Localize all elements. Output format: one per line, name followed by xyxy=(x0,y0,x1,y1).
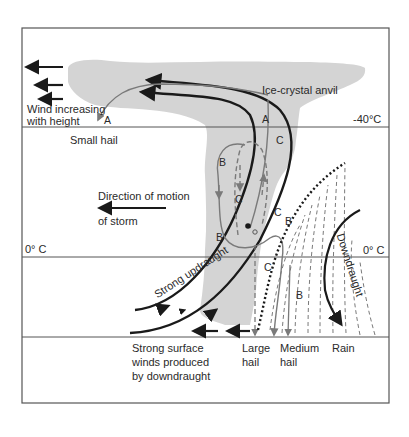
large-hail-label-1: Large xyxy=(242,342,270,355)
marker-B-rain: B xyxy=(296,289,303,302)
medium-hail-label-2: hail xyxy=(280,356,297,369)
direction-label-1: Direction of motion xyxy=(98,190,190,203)
marker-A-left: A xyxy=(104,114,111,127)
ice-crystal-anvil-label: Ice-crystal anvil xyxy=(262,84,338,97)
marker-C-mid-right: C xyxy=(274,206,282,219)
direction-label-2: of storm xyxy=(98,215,138,228)
marker-B-upper: B xyxy=(219,156,226,169)
large-hail-label-2: hail xyxy=(242,356,259,369)
marker-C-mid-left: C xyxy=(235,193,243,206)
temp-zero-right-label: 0° C xyxy=(363,244,385,257)
temp-zero-left-label: 0° C xyxy=(25,243,47,256)
marker-C-bottom: C xyxy=(264,261,272,274)
wind-label-2: with height xyxy=(27,115,80,128)
temp-minus40-label: -40°C xyxy=(353,113,381,126)
rain-lines xyxy=(270,165,375,335)
small-hail-label: Small hail xyxy=(70,134,118,147)
medium-hail-label-1: Medium xyxy=(280,342,319,355)
surface-winds-label-2: winds produced xyxy=(132,356,209,369)
marker-A-top: A xyxy=(262,113,269,126)
marker-B-lower: B xyxy=(216,231,223,244)
surface-winds-label-3: by downdraught xyxy=(132,370,210,383)
marker-B-right: B xyxy=(285,215,292,228)
surface-winds-label-1: Strong surface xyxy=(132,342,204,355)
marker-C-top: C xyxy=(276,134,284,147)
rain-label: Rain xyxy=(332,342,355,355)
hail-origin-dot xyxy=(245,223,251,229)
